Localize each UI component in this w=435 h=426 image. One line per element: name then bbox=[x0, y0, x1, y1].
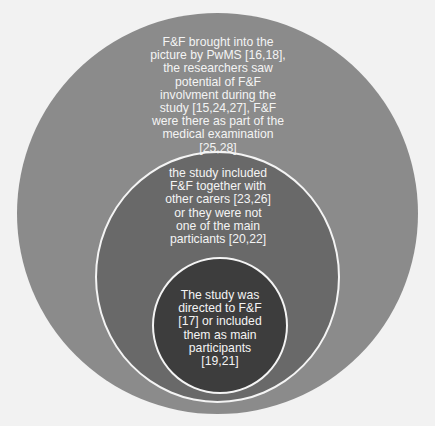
middle-circle-label: the study included F&F together with oth… bbox=[160, 167, 276, 246]
outer-circle-label: F&F brought into the picture by PwMS [16… bbox=[145, 36, 291, 155]
inner-circle-label: The study was directed to F&F [17] or in… bbox=[172, 289, 268, 368]
nested-circle-diagram: F&F brought into the picture by PwMS [16… bbox=[0, 0, 435, 426]
